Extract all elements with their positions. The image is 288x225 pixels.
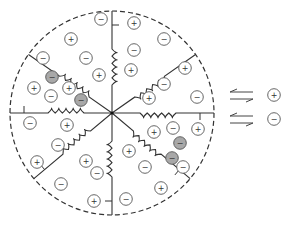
ion-sign: + [91,197,98,206]
anion-ion: − [45,90,58,103]
cation-ion: + [123,145,136,158]
cation-ion: + [125,64,138,77]
cation-ion: + [31,156,44,169]
arm-west [10,106,112,113]
legend-item-anion: − [230,113,280,126]
ion-sign: − [49,73,56,82]
ion-sign: − [131,46,138,55]
legend-item-cation: + [230,89,280,102]
ion-sign: + [68,35,75,44]
network-center-node [110,111,113,114]
ion-sign: + [146,94,153,103]
ion-sign: − [98,15,105,24]
ion-sign: + [128,66,135,75]
spring-coil [112,113,214,118]
ion-sign: − [58,180,65,189]
cation-ion: + [80,155,93,168]
ion-sign: − [180,163,187,172]
anion-ion: − [191,91,204,104]
ion-sign: − [142,163,149,172]
ion-sign: − [78,96,85,105]
anion-ion: − [158,33,171,46]
ion-sign: − [27,119,34,128]
arm-north [112,11,119,113]
anion-ion: − [174,137,187,150]
ion-sign: + [126,147,133,156]
anion-ion: − [37,52,50,65]
anion-ion: − [120,193,133,206]
anion-ion: − [167,122,180,135]
ion-sign: + [64,121,71,130]
arm-east [112,113,214,120]
cation-ion: + [155,182,168,195]
ion-sign: − [123,195,130,204]
cation-ion: + [148,126,161,139]
svg-text:+: + [271,91,278,100]
anion-ion: − [52,139,65,152]
ion-sign: − [40,54,47,63]
anion-ion: − [91,167,104,180]
spring-coil [10,108,112,113]
cation-ion: + [179,62,192,75]
ion-sign: − [161,35,168,44]
anion-ion: − [80,52,93,65]
anion-ion: − [139,161,152,174]
svg-text:−: − [271,115,278,124]
anion-ion: − [166,152,179,165]
anion-ion: − [46,71,59,84]
anion-ion: − [24,117,37,130]
arm-south [105,113,112,215]
ion-sign: + [83,157,90,166]
ion-sign: − [194,93,201,102]
ion-sign: − [161,80,168,89]
anion-ion: − [177,161,190,174]
ion-sign: − [177,139,184,148]
ion-sign: − [48,92,55,101]
cation-ion: + [128,17,141,30]
ion-sign: + [158,184,165,193]
cation-ion: + [143,92,156,105]
cation-ion: + [88,195,101,208]
ion-sign: + [131,19,138,28]
ion-sign: + [151,128,158,137]
cation-ion: + [61,119,74,132]
ion-sign: + [31,84,38,93]
anion-ion: − [75,94,88,107]
ion-sign: + [195,125,202,134]
ion-sign: + [66,84,73,93]
anion-ion: − [55,178,68,191]
ion-sign: + [34,158,41,167]
legend: +− [230,89,280,126]
ion-sign: − [55,141,62,150]
cation-ion: + [65,33,78,46]
spring-coil [112,11,117,113]
ion-sign: − [169,154,176,163]
cation-ion: + [63,82,76,95]
ion-sign: + [96,71,103,80]
ion-sign: − [94,169,101,178]
ion-exchange-diagram: −++−−−−+++−−++−−+−−++−+−−+++−−−−−++− +− [0,0,288,225]
cation-ion: + [192,123,205,136]
ion-sign: − [83,54,90,63]
anion-ion: − [128,44,141,57]
ion-sign: − [170,124,177,133]
anion-ion: − [158,78,171,91]
spring-coil [107,113,112,215]
diagram-canvas: −++−−−−+++−−++−−+−−++−+−−+++−−−−−++− +− [0,0,288,225]
ion-sign: + [182,64,189,73]
cation-ion: + [28,82,41,95]
cation-ion: + [93,69,106,82]
anion-ion: − [95,13,108,26]
